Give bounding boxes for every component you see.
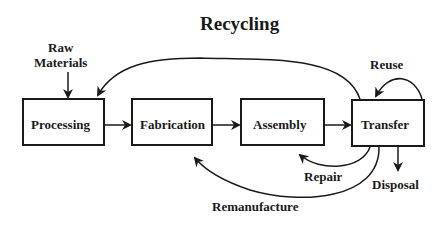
- repair-arrow: [300, 147, 370, 166]
- raw-materials-line2: Materials: [34, 55, 87, 70]
- repair-label: Repair: [304, 169, 342, 185]
- remanufacture-arrow: [195, 147, 379, 197]
- disposal-label: Disposal: [372, 177, 419, 193]
- reuse-label: Reuse: [370, 57, 403, 73]
- diagram-title: Recycling: [200, 13, 279, 35]
- assembly-label: Assembly: [253, 117, 306, 133]
- fabrication-label: Fabrication: [140, 117, 205, 133]
- raw-materials-line1: Raw: [34, 40, 87, 55]
- remanufacture-label: Remanufacture: [212, 199, 298, 215]
- recycling-loop-arrow: [98, 58, 360, 99]
- raw-materials-label: Raw Materials: [34, 40, 87, 70]
- reuse-loop-arrow: [376, 79, 422, 99]
- processing-label: Processing: [31, 117, 90, 133]
- transfer-label: Transfer: [361, 117, 409, 133]
